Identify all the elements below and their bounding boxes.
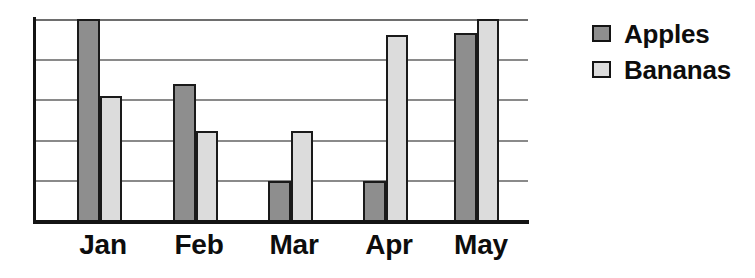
bar-apr-bananas[interactable] [386,35,408,222]
y-axis-line [33,17,36,224]
x-axis-line [33,220,529,224]
bar-apr-apples[interactable] [363,181,386,222]
x-axis-label-mar: Mar [249,228,339,262]
bar-may-apples[interactable] [454,33,477,222]
x-axis-label-may: May [436,228,526,262]
bar-feb-bananas[interactable] [196,131,218,222]
bar-group-jan [77,19,129,222]
plot-area [33,19,528,222]
legend-entry-bananas[interactable]: Bananas [592,54,752,85]
legend-label-apples: Apples [624,19,709,49]
legend-swatch-bananas-icon [592,61,611,78]
bars-layer [33,19,528,222]
bar-mar-apples[interactable] [268,181,291,222]
chart-legend: Apples Bananas [592,18,752,90]
x-axis-labels: Jan Feb Mar Apr May [33,228,528,268]
legend-swatch-apples-icon [592,25,611,42]
bar-jan-apples[interactable] [77,19,100,222]
bar-group-mar [268,19,320,222]
bar-chart-figure: Jan Feb Mar Apr May Apples Bananas [0,0,755,278]
bar-group-may [454,19,506,222]
bar-feb-apples[interactable] [173,84,196,222]
x-axis-label-feb: Feb [154,228,244,262]
bar-jan-bananas[interactable] [100,96,122,222]
x-axis-label-apr: Apr [344,228,434,262]
legend-entry-apples[interactable]: Apples [592,18,752,49]
legend-label-bananas: Bananas [624,55,731,85]
bar-mar-bananas[interactable] [291,131,313,222]
bar-may-bananas[interactable] [477,19,499,222]
bar-group-apr [363,19,415,222]
bar-group-feb [173,19,225,222]
x-axis-label-jan: Jan [58,228,148,262]
